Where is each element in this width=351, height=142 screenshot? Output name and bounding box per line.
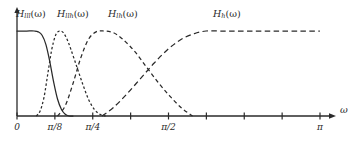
filter-bank-frequency-response-figure: Hlll(ω)Hllh(ω)Hlh(ω)Hh(ω) 0π/8π/4π/2π ω [0, 0, 351, 142]
curve-label-argument: (ω) [225, 8, 240, 19]
curve-label-llh: Hllh(ω) [57, 8, 89, 20]
curve-h-lh [58, 31, 193, 116]
x-tick-label: π [317, 122, 323, 132]
curve-label-h: Hh(ω) [213, 8, 241, 20]
curve-h-h [102, 31, 320, 116]
x-tick-label: π/8 [48, 122, 63, 132]
x-tick-label: π/2 [161, 122, 176, 132]
curve-label-lll: Hlll(ω) [16, 8, 46, 20]
curve-label-argument: (ω) [123, 8, 138, 19]
curves-group [17, 31, 320, 116]
curve-label-argument: (ω) [74, 8, 89, 19]
x-axis-label: ω [340, 104, 348, 115]
x-tick-label: π/4 [85, 122, 100, 132]
x-axis-arrowhead [329, 113, 336, 119]
curve-label-lh: Hlh(ω) [108, 8, 138, 20]
plot-canvas [0, 0, 351, 142]
curve-label-argument: (ω) [31, 8, 46, 19]
curve-label-subscript: llh [65, 12, 73, 20]
curve-h-llh [36, 31, 105, 116]
x-tick-label: 0 [14, 122, 20, 132]
curve-h-lll [17, 31, 73, 116]
